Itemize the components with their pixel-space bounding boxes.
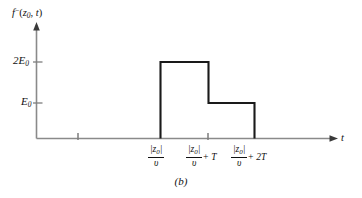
fraction-t3-denominator: υ (235, 158, 243, 168)
fraction-t3-numerator: |z0| (231, 145, 247, 157)
y-tick-label-2E0-subscript: 0 (25, 59, 29, 68)
figure-container: f−(z0, t) 2E0 E0 t |z0| υ |z0| υ + T |z0… (0, 0, 362, 198)
y-axis-label-close-paren: ) (39, 7, 43, 18)
plot-canvas (0, 0, 362, 198)
x-axis-label: t (341, 133, 344, 144)
x-tick-label-t2-offset: + T (202, 152, 216, 162)
y-tick-label-2E0: 2E0 (13, 55, 29, 68)
fraction-t1-denominator: υ (152, 158, 160, 168)
fraction-t1: |z0| υ (148, 145, 164, 168)
y-tick-label-2E0-main: 2E (13, 54, 25, 66)
x-axis-arrowhead (330, 135, 339, 141)
x-tick-label-t2: |z0| υ + T (186, 143, 217, 171)
y-axis-arrowhead (33, 22, 40, 31)
figure-caption: (b) (0, 176, 362, 187)
x-tick-label-t3-offset: + 2T (247, 152, 266, 162)
y-tick-label-E0-main: E (21, 95, 28, 107)
fraction-t2-denominator: υ (190, 158, 198, 168)
fraction-t3: |z0| υ (231, 145, 247, 168)
step-pulse-curve (161, 62, 255, 139)
y-axis-label: f−(z0, t) (12, 7, 42, 20)
fraction-t2-numerator: |z0| (186, 145, 202, 157)
y-tick-label-E0-subscript: 0 (28, 100, 32, 109)
fraction-t2: |z0| υ (186, 145, 202, 168)
fraction-t1-numerator: |z0| (148, 145, 164, 157)
x-tick-label-t1: |z0| υ (148, 143, 164, 171)
x-tick-label-t3: |z0| υ + 2T (231, 143, 266, 171)
y-tick-label-E0: E0 (21, 96, 31, 109)
